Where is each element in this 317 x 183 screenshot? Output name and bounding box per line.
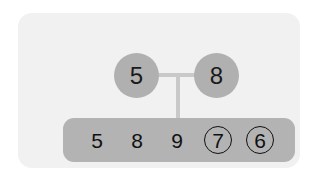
vertical-connector-line xyxy=(176,73,180,121)
sequence-cell[interactable]: 8 xyxy=(124,127,150,153)
sequence-cell-circled[interactable]: 6 xyxy=(246,126,274,154)
sequence-cell-circled[interactable]: 7 xyxy=(204,126,232,154)
parent-node-left-label: 5 xyxy=(130,64,143,88)
sequence-bar: 5 8 9 7 6 xyxy=(63,118,295,162)
diagram-canvas: 5 8 5 8 9 7 6 xyxy=(0,0,317,183)
parent-node-left[interactable]: 5 xyxy=(114,53,159,98)
sequence-cell[interactable]: 5 xyxy=(84,127,110,153)
parent-node-right-label: 8 xyxy=(210,64,223,88)
sequence-cell[interactable]: 9 xyxy=(164,127,190,153)
parent-node-right[interactable]: 8 xyxy=(194,53,239,98)
diagram-card: 5 8 5 8 9 7 6 xyxy=(18,13,300,168)
